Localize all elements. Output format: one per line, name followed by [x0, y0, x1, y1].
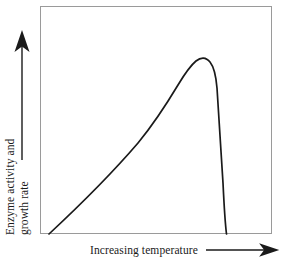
plot-area-frame: [40, 6, 272, 234]
chart-figure: Enzyme activity and growth rate Increasi…: [0, 0, 281, 265]
x-axis-label: Increasing temperature: [90, 244, 198, 256]
y-axis-label-line-1: Enzyme activity and: [4, 139, 18, 235]
y-axis-label: Enzyme activity and growth rate: [0, 85, 36, 235]
y-axis-label-line-2: growth rate: [18, 181, 32, 235]
x-axis-right-arrow-icon: [206, 240, 281, 260]
x-axis-group: Increasing temperature: [40, 238, 281, 262]
y-axis-group: Enzyme activity and growth rate: [0, 0, 40, 240]
